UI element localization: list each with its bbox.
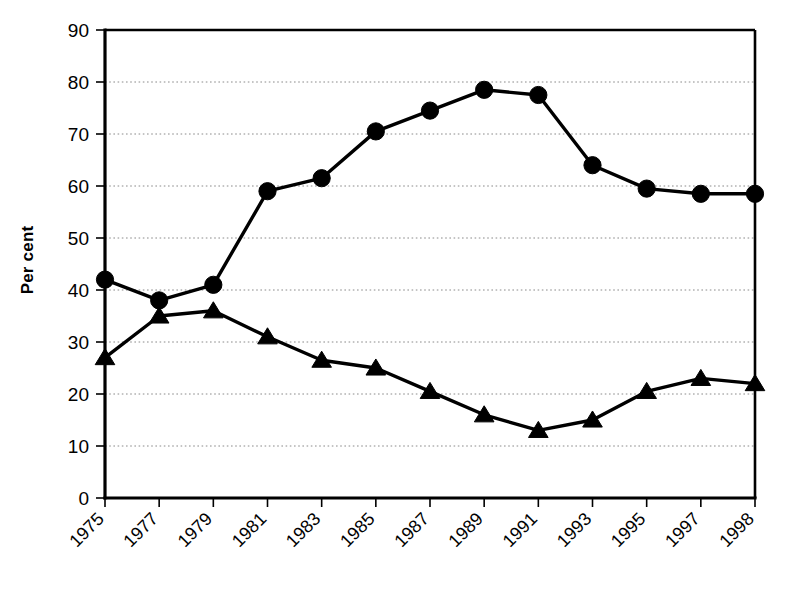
series-markers-group <box>95 81 765 437</box>
series-line-triangle <box>105 311 755 431</box>
x-tick-label: 1997 <box>661 509 703 551</box>
y-tick-label: 0 <box>78 488 89 509</box>
data-point-circle <box>367 123 384 140</box>
x-tick-label: 1979 <box>174 509 216 551</box>
data-point-circle <box>476 81 493 98</box>
x-tick-label: 1977 <box>120 509 162 551</box>
data-point-triangle <box>258 328 278 344</box>
y-tick-label: 40 <box>68 280 89 301</box>
x-tick-label: 1981 <box>228 509 270 551</box>
x-tick-label: 1989 <box>445 509 487 551</box>
data-point-circle <box>692 185 709 202</box>
data-point-circle <box>313 170 330 187</box>
x-tick-label: 1995 <box>607 509 649 551</box>
series-line-circle <box>105 90 755 301</box>
x-tick-label: 1993 <box>553 509 595 551</box>
y-tick-labels-group: 0102030405060708090 <box>68 20 89 509</box>
x-tick-label: 1987 <box>390 509 432 551</box>
data-point-circle <box>205 276 222 293</box>
x-tick-label: 1975 <box>65 509 107 551</box>
data-point-circle <box>746 185 763 202</box>
data-point-circle <box>96 271 113 288</box>
series-lines-group <box>105 90 755 431</box>
data-point-triangle <box>312 351 332 367</box>
data-point-circle <box>638 180 655 197</box>
plot-frame <box>105 30 755 498</box>
x-tick-label: 1983 <box>282 509 324 551</box>
y-tick-label: 10 <box>68 436 89 457</box>
y-tick-label: 90 <box>68 20 89 41</box>
y-tick-label: 20 <box>68 384 89 405</box>
y-tick-label: 70 <box>68 124 89 145</box>
data-point-circle <box>259 183 276 200</box>
data-point-circle <box>530 86 547 103</box>
data-point-circle <box>584 157 601 174</box>
y-tick-label: 60 <box>68 176 89 197</box>
x-tick-label: 1991 <box>499 509 541 551</box>
data-point-triangle <box>420 382 440 398</box>
y-tick-label: 30 <box>68 332 89 353</box>
data-point-triangle <box>583 411 603 427</box>
data-point-triangle <box>474 406 494 422</box>
y-tick-label: 80 <box>68 72 89 93</box>
chart-container: Per cent 0102030405060708090 19751977197… <box>0 0 789 596</box>
y-tick-label: 50 <box>68 228 89 249</box>
x-tick-labels-group: 1975197719791981198319851987198919911993… <box>65 509 757 551</box>
x-tick-label: 1985 <box>336 509 378 551</box>
x-tick-label: 1998 <box>715 509 757 551</box>
data-point-circle <box>421 102 438 119</box>
line-chart-plot: 0102030405060708090 19751977197919811983… <box>0 0 789 596</box>
